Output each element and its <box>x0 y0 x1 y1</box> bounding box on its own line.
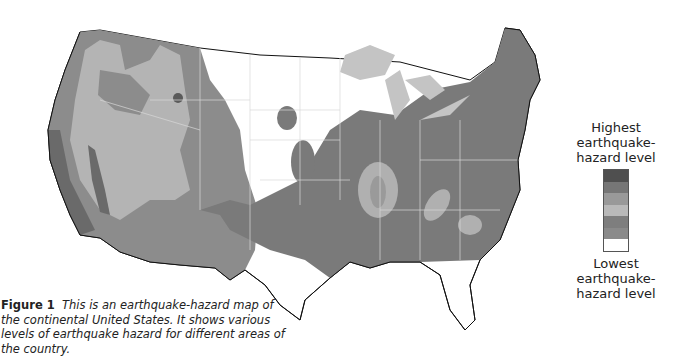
legend-band-2 <box>604 182 628 194</box>
legend-band-4 <box>604 205 628 217</box>
legend-band-5 <box>604 216 628 228</box>
yellowstone-high <box>173 93 183 103</box>
legend-top-label: Highest earthquake-hazard level <box>556 120 676 165</box>
earthquake-hazard-map <box>0 0 580 340</box>
legend-band-7 <box>604 239 628 251</box>
hazard-legend: Highest earthquake-hazard level Lowest e… <box>556 120 676 301</box>
sd-hazard <box>277 106 297 130</box>
charleston-light <box>458 215 482 235</box>
figure-caption: Figure 1 This is an earthquake-hazard ma… <box>1 298 291 356</box>
legend-color-ramp <box>603 169 629 252</box>
legend-band-1 <box>604 170 628 182</box>
nebraska-hazard <box>291 140 315 184</box>
legend-band-3 <box>604 193 628 205</box>
legend-bottom-label: Lowest earthquake-hazard level <box>556 256 676 301</box>
new-madrid-center <box>370 176 386 208</box>
figure-label: Figure 1 <box>1 298 55 312</box>
legend-band-6 <box>604 228 628 240</box>
